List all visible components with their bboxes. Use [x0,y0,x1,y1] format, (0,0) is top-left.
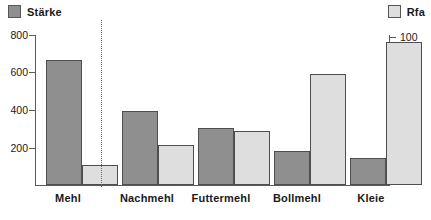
category-label-nachmehl: Nachmehl [111,192,183,204]
legend-swatch-starke-icon [8,5,21,18]
legend-swatch-rfa-icon [388,5,401,18]
bar-rfa-bollmehl [310,74,346,185]
category-label-futtermehl: Futtermehl [183,192,259,204]
bar-rfa-kleie [386,42,422,185]
left-axis-label-800: 800 [10,30,28,41]
bar-starke-mehl [46,60,82,185]
legend-label-starke: Stärke [27,6,62,18]
bar-starke-bollmehl [274,151,310,185]
bar-rfa-nachmehl [158,145,194,185]
legend-entry-rfa: Rfa [388,5,425,18]
right-axis-label-100: 100 [400,32,418,43]
category-label-kleie: Kleie [335,192,407,204]
group-divider-line [101,20,102,187]
category-label-mehl: Mehl [35,192,101,204]
left-axis-label-400: 400 [10,105,28,116]
bar-starke-kleie [350,158,386,185]
bar-starke-futtermehl [198,128,234,185]
plot-area [35,35,390,186]
left-axis-label-200: 200 [10,143,28,154]
bar-starke-nachmehl [122,111,158,185]
left-axis-label-600: 600 [10,67,28,78]
bar-chart: Stärke Rfa 800 600 400 200 100 75 50 25 [0,0,431,220]
legend-entry-starke: Stärke [8,5,62,18]
right-axis-tick-100 [390,37,396,38]
legend-label-rfa: Rfa [407,6,425,18]
bar-rfa-mehl [82,165,118,185]
category-label-bollmehl: Bollmehl [259,192,335,204]
bar-rfa-futtermehl [234,131,270,185]
